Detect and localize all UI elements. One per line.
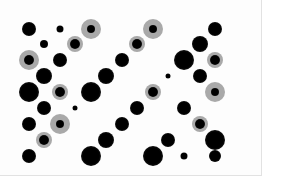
dot-pattern-canvas: [0, 0, 262, 176]
solid-dot: [98, 68, 114, 84]
solid-dot: [166, 74, 171, 79]
solid-dot: [36, 68, 52, 84]
solid-dot: [81, 146, 101, 166]
solid-dot: [37, 101, 51, 115]
solid-dot: [130, 101, 144, 115]
dot-core: [55, 87, 65, 97]
ringed-dot: [145, 84, 161, 100]
solid-dot: [115, 117, 129, 131]
dot-core: [56, 120, 64, 128]
dot-core: [132, 39, 142, 49]
solid-dot: [57, 26, 64, 33]
dot-core: [39, 135, 49, 145]
dot-core: [87, 25, 95, 33]
ringed-dot: [19, 50, 39, 70]
solid-dot: [22, 149, 36, 163]
solid-dot: [181, 153, 188, 160]
ringed-dot: [205, 82, 225, 102]
dot-core: [148, 87, 158, 97]
solid-dot: [161, 133, 175, 147]
solid-dot: [22, 22, 36, 36]
ringed-dot: [129, 36, 145, 52]
solid-dot: [143, 146, 163, 166]
solid-dot: [98, 132, 114, 148]
dot-core: [210, 55, 220, 65]
ringed-dot: [192, 116, 208, 132]
solid-dot: [209, 150, 221, 162]
solid-dot: [53, 53, 67, 67]
solid-dot: [22, 117, 36, 131]
dot-core: [70, 39, 80, 49]
dot-core: [149, 25, 157, 33]
ringed-dot: [36, 132, 52, 148]
solid-dot: [40, 40, 48, 48]
dot-core: [211, 88, 219, 96]
solid-dot: [174, 50, 194, 70]
solid-dot: [192, 36, 208, 52]
ringed-dot: [67, 36, 83, 52]
ringed-dot: [207, 52, 223, 68]
solid-dot: [208, 22, 222, 36]
dot-core: [24, 55, 34, 65]
ringed-dot: [52, 84, 68, 100]
solid-dot: [19, 82, 39, 102]
ringed-dot: [50, 114, 70, 134]
solid-dot: [177, 101, 191, 115]
solid-dot: [115, 53, 129, 67]
dot-core: [195, 119, 205, 129]
solid-dot: [81, 82, 101, 102]
ringed-dot: [81, 19, 101, 39]
solid-dot: [193, 69, 207, 83]
solid-dot: [205, 130, 225, 150]
solid-dot: [73, 106, 78, 111]
ringed-dot: [143, 19, 163, 39]
